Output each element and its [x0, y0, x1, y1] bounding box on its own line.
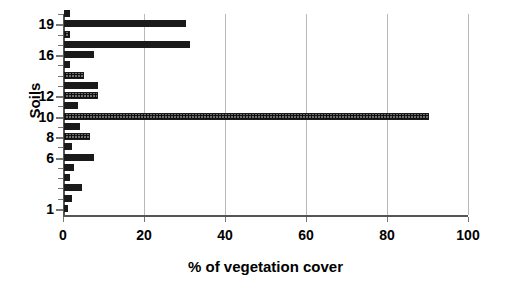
y-tick-mark-18 [58, 35, 63, 36]
y-tick-mark-13 [58, 86, 63, 87]
bar-soil-5 [64, 164, 74, 171]
y-tick-mark-14 [58, 76, 63, 77]
bar-soil-15 [64, 61, 70, 68]
y-tick-label-1: 1 [26, 202, 54, 216]
x-tick-mark-80 [387, 217, 388, 222]
x-tick-label-100: 100 [448, 228, 488, 242]
x-tick-mark-60 [306, 217, 307, 222]
vegetation-cover-bar-chart: Soils % of vegetation cover 168101216190… [0, 0, 509, 293]
bar-soil-10 [64, 113, 429, 120]
y-tick-label-19: 19 [26, 17, 54, 31]
x-axis-line [63, 215, 468, 217]
bar-soil-18 [64, 31, 70, 38]
bar-soil-6 [64, 154, 94, 161]
y-major-tick-10 [56, 117, 63, 119]
y-tick-mark-15 [58, 65, 63, 66]
x-tick-mark-40 [225, 217, 226, 222]
y-tick-mark-11 [58, 106, 63, 107]
x-axis-title: % of vegetation cover [63, 258, 468, 275]
y-tick-label-12: 12 [26, 89, 54, 103]
gridline-x-100 [468, 14, 469, 215]
y-tick-label-10: 10 [26, 110, 54, 124]
y-tick-mark-20 [58, 14, 63, 15]
bar-soil-16 [64, 51, 94, 58]
y-major-tick-6 [56, 158, 63, 160]
y-tick-label-16: 16 [26, 48, 54, 62]
y-major-tick-12 [56, 96, 63, 98]
bar-soil-17 [64, 41, 190, 48]
x-tick-mark-0 [63, 217, 64, 222]
y-tick-mark-3 [58, 188, 63, 189]
bar-soil-20 [64, 10, 70, 17]
x-tick-mark-100 [468, 217, 469, 222]
y-major-tick-1 [56, 209, 63, 211]
bar-soil-19 [64, 20, 186, 27]
x-tick-label-0: 0 [43, 228, 83, 242]
bar-soil-13 [64, 82, 98, 89]
y-major-tick-8 [56, 137, 63, 139]
x-tick-label-40: 40 [205, 228, 245, 242]
x-tick-label-20: 20 [124, 228, 164, 242]
y-tick-mark-5 [58, 168, 63, 169]
bar-soil-4 [64, 174, 70, 181]
y-tick-label-8: 8 [26, 130, 54, 144]
bar-soil-12 [64, 92, 98, 99]
x-tick-mark-20 [144, 217, 145, 222]
bar-soil-2 [64, 195, 72, 202]
y-tick-mark-9 [58, 127, 63, 128]
y-tick-mark-2 [58, 199, 63, 200]
y-tick-label-6: 6 [26, 151, 54, 165]
x-tick-label-60: 60 [286, 228, 326, 242]
bar-soil-11 [64, 102, 78, 109]
y-tick-mark-17 [58, 45, 63, 46]
bar-soil-3 [64, 184, 82, 191]
bar-soil-8 [64, 133, 90, 140]
bar-soil-9 [64, 123, 80, 130]
y-major-tick-19 [56, 24, 63, 26]
bar-soil-1 [64, 205, 68, 212]
y-tick-mark-4 [58, 178, 63, 179]
bar-soil-14 [64, 72, 84, 79]
x-tick-label-80: 80 [367, 228, 407, 242]
y-tick-mark-7 [58, 147, 63, 148]
bar-soil-7 [64, 143, 72, 150]
y-major-tick-16 [56, 55, 63, 57]
